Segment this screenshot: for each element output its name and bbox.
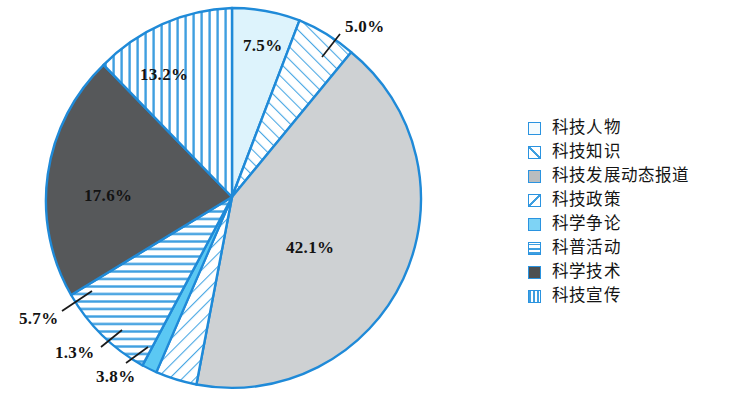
legend-label-keji-renwu: 科技人物 bbox=[552, 120, 621, 137]
legend-label-keji-xuanchuan: 科技宣传 bbox=[552, 288, 621, 305]
chart-legend: 科技人物 科技知识 科技发展动态报道 科技政策 科学争论 科普活动 科学技术 bbox=[528, 116, 743, 308]
pie-label-kexue-jishu: 17.6% bbox=[84, 186, 132, 206]
legend-swatch-vertical-lines-icon bbox=[528, 290, 541, 303]
legend-label-keji-zhishi: 科技知识 bbox=[552, 144, 621, 161]
legend-label-kexue-zhenglun: 科学争论 bbox=[552, 216, 621, 233]
pie-label-keji-zhishi: 5.0% bbox=[345, 17, 384, 37]
pie-label-kexue-zhenglun: 1.3% bbox=[55, 343, 94, 363]
legend-swatch-solid-blue-icon bbox=[528, 218, 541, 231]
pie-chart-svg bbox=[0, 0, 460, 402]
legend-item-keji-renwu[interactable]: 科技人物 bbox=[528, 116, 743, 140]
legend-item-kexue-jishu[interactable]: 科学技术 bbox=[528, 260, 743, 284]
pie-label-keji-fazhan: 42.1% bbox=[286, 238, 334, 258]
legend-label-keji-fazhan: 科技发展动态报道 bbox=[552, 168, 690, 185]
legend-swatch-solid-lightcyan-icon bbox=[528, 122, 541, 135]
pie-label-keji-renwu: 7.5% bbox=[243, 36, 282, 56]
legend-item-keji-xuanchuan[interactable]: 科技宣传 bbox=[528, 284, 743, 308]
legend-label-kexue-jishu: 科学技术 bbox=[552, 264, 621, 281]
legend-item-keji-zhishi[interactable]: 科技知识 bbox=[528, 140, 743, 164]
pie-label-keji-xuanchuan: 13.2% bbox=[140, 65, 188, 85]
legend-swatch-solid-gray-icon bbox=[528, 170, 541, 183]
pie-label-keji-zhengce: 3.8% bbox=[96, 367, 135, 387]
legend-item-kepu-huodong[interactable]: 科普活动 bbox=[528, 236, 743, 260]
legend-label-kepu-huodong: 科普活动 bbox=[552, 240, 621, 257]
legend-item-keji-fazhan[interactable]: 科技发展动态报道 bbox=[528, 164, 743, 188]
legend-swatch-diagonal-back-icon bbox=[528, 194, 541, 207]
pie-label-kepu-huodong: 5.7% bbox=[19, 309, 58, 329]
legend-swatch-diagonal-forward-icon bbox=[528, 146, 541, 159]
pie-chart-figure: 7.5% 5.0% 42.1% 13.2% 17.6% 5.7% 1.3% 3.… bbox=[0, 0, 747, 402]
legend-label-keji-zhengce: 科技政策 bbox=[552, 192, 621, 209]
legend-item-kexue-zhenglun[interactable]: 科学争论 bbox=[528, 212, 743, 236]
legend-swatch-solid-darkgray-icon bbox=[528, 266, 541, 279]
legend-item-keji-zhengce[interactable]: 科技政策 bbox=[528, 188, 743, 212]
legend-swatch-horizontal-lines-icon bbox=[528, 242, 541, 255]
